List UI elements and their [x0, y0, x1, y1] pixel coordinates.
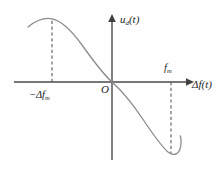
negative-peak-base: Δf — [36, 89, 45, 100]
positive-trough-label: fm — [164, 63, 172, 74]
negative-peak-subscript: m — [45, 94, 50, 101]
x-axis-label: Δf(t) — [192, 79, 212, 90]
y-axis-label-argument: (t) — [129, 13, 139, 25]
negative-peak-label: −Δfm — [30, 90, 50, 101]
y-axis-arrow-icon — [108, 14, 116, 22]
positive-trough-subscript: m — [167, 67, 172, 74]
y-axis-label: ud(t) — [120, 14, 139, 27]
origin-label: O — [101, 84, 109, 95]
x-axis-label-base: Δf — [192, 78, 202, 90]
discriminator-curve-figure: ud(t) Δf(t) O −Δfm fm — [0, 0, 222, 170]
plot-canvas — [0, 0, 222, 170]
x-axis-label-argument: (t) — [202, 78, 212, 90]
